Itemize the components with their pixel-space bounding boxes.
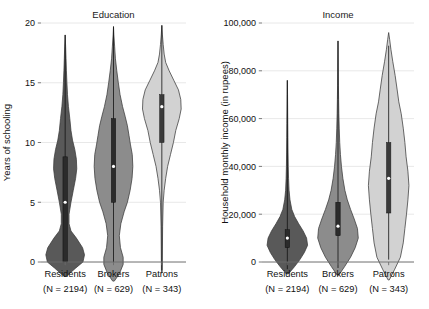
x-tick-sublabel: (N = 2194) bbox=[265, 284, 309, 294]
figure-canvas: 05101520EducationYears of schoolingResid… bbox=[0, 0, 429, 309]
x-tick-label: Patrons bbox=[373, 269, 405, 279]
x-tick-label: Brokers bbox=[97, 269, 129, 279]
x-tick-sublabel: (N = 2194) bbox=[43, 284, 87, 294]
y-tick-label: 5 bbox=[30, 198, 35, 208]
median-point-brokers bbox=[336, 225, 339, 228]
panel-title: Education bbox=[92, 9, 134, 20]
y-tick-label: 100,000 bbox=[223, 18, 256, 28]
x-tick-sublabel: (N = 343) bbox=[369, 284, 408, 294]
violin-plot-figure: 05101520EducationYears of schoolingResid… bbox=[0, 0, 429, 309]
median-point-residents bbox=[286, 237, 289, 240]
y-tick-label: 10 bbox=[25, 138, 35, 148]
y-tick-label: 0 bbox=[30, 257, 35, 267]
y-tick-label: 60,000 bbox=[228, 114, 256, 124]
y-axis-label: Household monthly income (in rupees) bbox=[219, 61, 230, 224]
iqr-box-patrons bbox=[160, 95, 164, 143]
x-tick-label: Residents bbox=[44, 269, 86, 279]
iqr-box-brokers bbox=[111, 119, 115, 203]
y-tick-label: 80,000 bbox=[228, 66, 256, 76]
y-tick-label: 15 bbox=[25, 78, 35, 88]
x-tick-label: Residents bbox=[267, 269, 309, 279]
iqr-box-residents bbox=[63, 157, 67, 262]
panel-title: Income bbox=[322, 9, 353, 20]
y-tick-label: 20 bbox=[25, 18, 35, 28]
x-tick-sublabel: (N = 629) bbox=[94, 284, 133, 294]
iqr-box-brokers bbox=[336, 202, 340, 235]
y-tick-label: 0 bbox=[251, 257, 256, 267]
median-point-patrons bbox=[160, 105, 163, 108]
median-point-brokers bbox=[112, 165, 115, 168]
x-tick-label: Brokers bbox=[322, 269, 354, 279]
y-tick-label: 40,000 bbox=[228, 162, 256, 172]
median-point-patrons bbox=[387, 177, 390, 180]
x-tick-sublabel: (N = 629) bbox=[318, 284, 357, 294]
y-tick-label: 20,000 bbox=[228, 210, 256, 220]
x-tick-sublabel: (N = 343) bbox=[142, 284, 181, 294]
y-axis-label: Years of schooling bbox=[1, 104, 12, 181]
median-point-residents bbox=[64, 201, 67, 204]
x-tick-label: Patrons bbox=[146, 269, 178, 279]
